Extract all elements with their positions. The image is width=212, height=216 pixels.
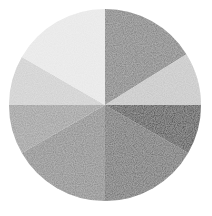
pie-slices xyxy=(9,9,201,201)
pie-chart xyxy=(0,0,212,216)
